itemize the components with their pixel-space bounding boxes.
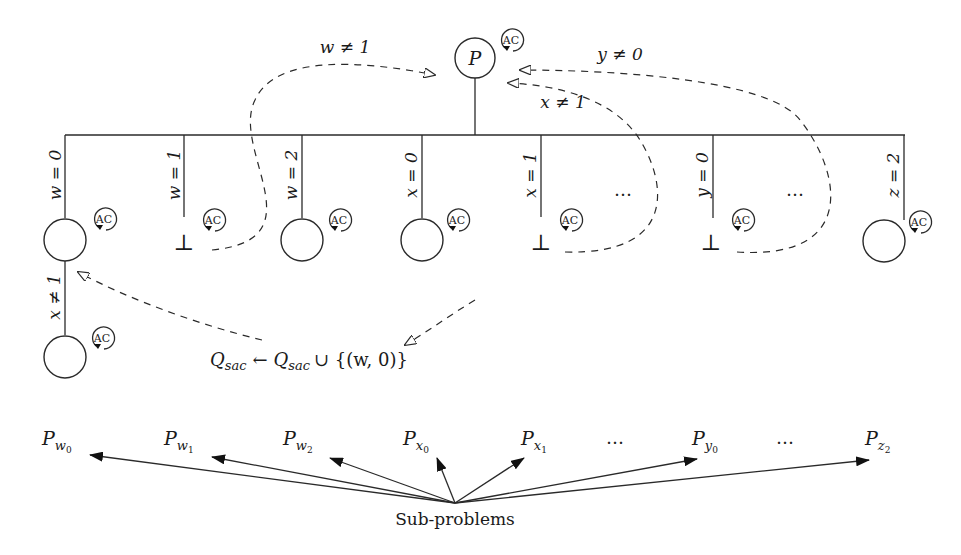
branch-x0: x = 0 AC [401, 135, 470, 261]
ac-loop-icon: AC [448, 209, 470, 231]
svg-text:AC: AC [733, 214, 750, 227]
refutation-label-x1: x ≠ 1 [540, 92, 585, 112]
bottom-symbol: ⊥ [701, 230, 722, 255]
svg-text:z = 2: z = 2 [883, 153, 903, 199]
branch-w2: w = 2 AC [281, 135, 352, 261]
bottom-symbol: ⊥ [174, 230, 195, 255]
svg-text:Qsac←Qsac∪ {(w, 0)}: Qsac←Qsac∪ {(w, 0)} [210, 349, 408, 373]
sub-problem-label: Py0 [691, 427, 718, 455]
svg-text:Pw2: Pw2 [282, 427, 313, 455]
sub-problem-label: Pz2 [864, 427, 890, 455]
ac-loop-icon: AC [95, 208, 117, 230]
branch-w0: w = 0 AC [44, 135, 117, 261]
sub-problems-caption: Sub-problems [395, 509, 515, 529]
branch-z2: z = 2 AC [863, 135, 932, 262]
ac-loop-icon: AC [330, 209, 352, 231]
svg-text:w = 1: w = 1 [164, 150, 184, 200]
ac-loop-icon: AC [910, 211, 932, 233]
svg-text:AC: AC [204, 214, 221, 227]
sub-problem-label: Pw1 [163, 427, 194, 455]
ac-loop-icon: AC [733, 209, 755, 231]
sub-problem-label: Pw0 [41, 427, 72, 455]
svg-text:Pz2: Pz2 [864, 427, 890, 455]
sub-problems: Pw0 Pw1 Pw2 Px0 Px1 … Py0 … Pz2 Sub-prob… [41, 427, 890, 529]
sub-problem-ellipsis: … [606, 427, 624, 448]
svg-text:AC: AC [502, 34, 519, 47]
sub-problem-ellipsis: … [776, 427, 794, 448]
svg-text:AC: AC [561, 214, 578, 227]
ac-loop-icon: AC [93, 327, 115, 349]
branch-x1: x = 1 ⊥ AC [520, 135, 583, 255]
svg-text:Pw0: Pw0 [41, 427, 72, 455]
refutation-label-y0: y ≠ 0 [596, 44, 643, 64]
branch-ellipsis: … [614, 179, 632, 200]
branch-y0: y = 0 ⊥ AC [692, 135, 755, 255]
svg-text:y = 0: y = 0 [692, 152, 712, 199]
branch-ellipsis: … [786, 179, 804, 200]
bottom-symbol: ⊥ [531, 230, 552, 255]
x1-to-queue-arrow [405, 300, 475, 345]
svg-text:P: P [468, 47, 483, 69]
branch-x-neq-1: x ≠ 1 AC [44, 261, 115, 378]
branch-w1: w = 1 ⊥ AC [164, 135, 226, 255]
svg-text:AC: AC [330, 214, 347, 227]
refutation-label-w1: w ≠ 1 [320, 37, 370, 57]
sac-search-tree-diagram: P AC w = 0 AC w = 1 ⊥ AC w = 2 AC [0, 0, 961, 555]
svg-text:Px0: Px0 [402, 427, 429, 455]
svg-text:AC: AC [448, 214, 465, 227]
root-node: P [455, 38, 495, 78]
svg-text:w = 0: w = 0 [45, 150, 65, 201]
svg-text:Pw1: Pw1 [163, 427, 194, 455]
svg-text:x = 1: x = 1 [520, 152, 540, 197]
svg-text:AC: AC [910, 216, 927, 229]
queue-update-formula: Qsac←Qsac∪ {(w, 0)} [210, 349, 408, 373]
ac-loop-icon: AC [204, 209, 226, 231]
ac-loop-icon: AC [502, 29, 524, 51]
svg-text:w = 2: w = 2 [281, 150, 301, 200]
svg-text:AC: AC [95, 213, 112, 226]
svg-text:Px1: Px1 [520, 427, 547, 455]
ac-loop-icon: AC [561, 209, 583, 231]
svg-text:Py0: Py0 [691, 427, 718, 455]
svg-text:x = 0: x = 0 [401, 152, 421, 198]
svg-text:x ≠ 1: x ≠ 1 [44, 274, 64, 319]
sub-problem-label: Px1 [520, 427, 547, 455]
svg-text:AC: AC [93, 332, 110, 345]
sub-problem-label: Pw2 [282, 427, 313, 455]
sub-problem-label: Px0 [402, 427, 429, 455]
queue-to-w0-arrow [78, 272, 262, 340]
